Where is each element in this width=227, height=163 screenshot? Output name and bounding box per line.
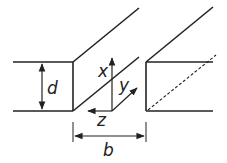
- left-wall: [13, 8, 139, 111]
- y-label: y: [118, 75, 130, 95]
- right-wall: [146, 7, 213, 111]
- x-label: x: [97, 61, 109, 81]
- channel-diagram: d x y z b: [0, 0, 227, 163]
- d-label: d: [47, 78, 58, 98]
- z-label: z: [96, 110, 107, 130]
- coordinate-axes: [88, 58, 137, 111]
- hidden-edge-dashed: [148, 55, 216, 110]
- b-dimension: [73, 122, 146, 142]
- b-label: b: [103, 140, 114, 160]
